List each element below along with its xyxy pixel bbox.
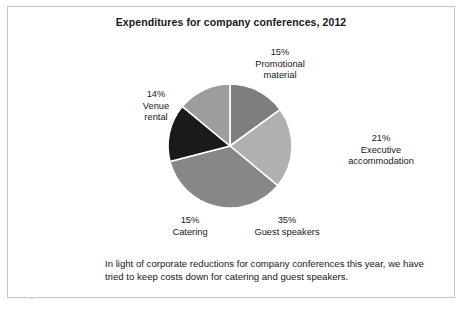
- slice-label-promotional-material: 15% Promotional material: [231, 47, 329, 82]
- slice-percent-promotional-material: 15%: [231, 47, 329, 59]
- scan-artifact-speck: [30, 297, 35, 299]
- slice-percent-executive-accommodation: 21%: [316, 133, 446, 145]
- slice-percent-catering: 15%: [148, 215, 232, 227]
- figure-frame: Expenditures for company conferences, 20…: [7, 6, 455, 298]
- slice-name-executive-accommodation-line1: Executive: [316, 145, 446, 157]
- slice-label-guest-speakers: 35% Guest speakers: [226, 215, 348, 238]
- slice-name-promotional-material-line1: Promotional: [231, 59, 329, 71]
- slice-label-executive-accommodation: 21% Executive accommodation: [316, 133, 446, 168]
- slice-label-venue-rental: 14% Venue rental: [114, 89, 198, 124]
- pie-chart: 15% Promotional material 21% Executive a…: [8, 7, 456, 299]
- slice-name-executive-accommodation-line2: accommodation: [316, 156, 446, 168]
- figure-caption: In light of corporate reductions for com…: [105, 257, 425, 284]
- slice-percent-guest-speakers: 35%: [226, 215, 348, 227]
- slice-name-venue-rental-line2: rental: [114, 112, 198, 124]
- slice-name-catering: Catering: [148, 227, 232, 239]
- slice-name-venue-rental-line1: Venue: [114, 101, 198, 113]
- slice-name-guest-speakers: Guest speakers: [226, 227, 348, 239]
- slice-label-catering: 15% Catering: [148, 215, 232, 238]
- slice-percent-venue-rental: 14%: [114, 89, 198, 101]
- slice-name-promotional-material-line2: material: [231, 70, 329, 82]
